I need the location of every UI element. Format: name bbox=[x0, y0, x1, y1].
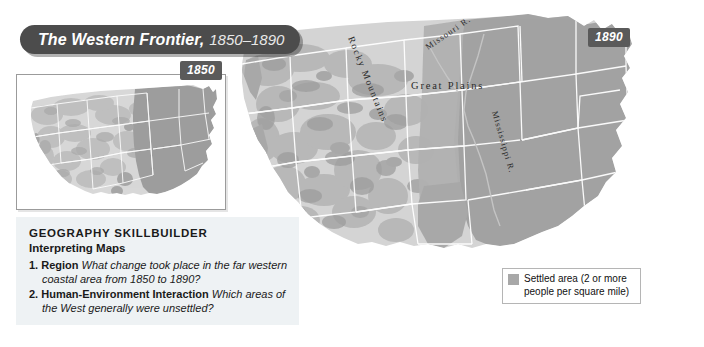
map-figure-page: Rocky Mountains Great Plains Missouri R.… bbox=[0, 0, 704, 347]
legend-label-group: Settled area (2 or more people per squar… bbox=[524, 273, 629, 298]
question-2-term: Human-Environment Interaction bbox=[41, 288, 208, 300]
question-1-term: Region bbox=[41, 259, 78, 271]
inset-map-1850 bbox=[16, 74, 226, 210]
legend-label-line1: Settled area (2 or more bbox=[524, 273, 629, 286]
question-1-text: What change took place in the far wester… bbox=[42, 259, 287, 285]
skillbuilder-question-1: 1. Region What change took place in the … bbox=[29, 258, 289, 286]
settled-east bbox=[454, 14, 632, 246]
year-badge-1850: 1850 bbox=[180, 61, 222, 80]
inset-map-graphic bbox=[17, 75, 223, 207]
figure-title-years: 1850–1890 bbox=[209, 31, 284, 48]
legend-label-line2: people per square mile) bbox=[524, 286, 629, 299]
skillbuilder-question-list: 1. Region What change took place in the … bbox=[29, 258, 289, 315]
skillbuilder-question-2: 2. Human-Environment Interaction Which a… bbox=[29, 287, 289, 315]
figure-title-banner: The Western Frontier, 1850–1890 bbox=[20, 25, 300, 54]
year-badge-1890: 1890 bbox=[588, 28, 630, 47]
skillbuilder-title: GEOGRAPHY SKILLBUILDER bbox=[29, 226, 289, 241]
map-legend: Settled area (2 or more people per squar… bbox=[502, 268, 641, 304]
question-1-number: 1. bbox=[29, 259, 38, 271]
legend-swatch-settled-area bbox=[508, 274, 519, 285]
geography-skillbuilder-box: GEOGRAPHY SKILLBUILDER Interpreting Maps… bbox=[16, 217, 299, 325]
skillbuilder-subtitle: Interpreting Maps bbox=[29, 241, 289, 256]
figure-title-main: The Western Frontier, bbox=[38, 31, 204, 49]
label-great-plains: Great Plains bbox=[411, 80, 484, 91]
question-2-number: 2. bbox=[29, 288, 38, 300]
